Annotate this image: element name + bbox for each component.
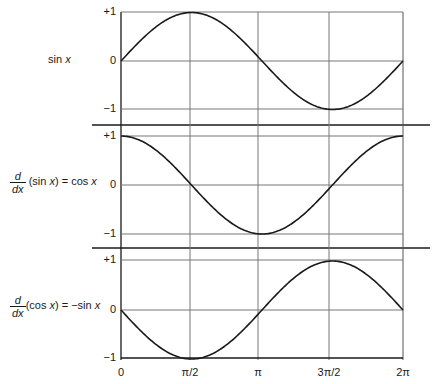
ytick-panel3-plus1: +1 xyxy=(96,253,116,265)
xtick-0: 0 xyxy=(101,366,141,378)
ytick-panel2-zero: 0 xyxy=(96,178,116,190)
panel-1-label: sin x xyxy=(48,53,71,65)
xtick-2pi: 2π xyxy=(383,366,423,378)
ytick-panel2-plus1: +1 xyxy=(96,129,116,141)
ytick-panel1-plus1: +1 xyxy=(96,5,116,17)
xtick-pi-half: π/2 xyxy=(170,366,210,378)
derivative-fraction: d dx xyxy=(10,170,26,195)
ytick-panel1-minus1: −1 xyxy=(96,102,116,114)
panel-3-label: d dx (cos x) = −sin x xyxy=(10,294,100,319)
derivative-fraction: d dx xyxy=(10,294,26,319)
ytick-panel3-zero: 0 xyxy=(96,303,116,315)
ytick-panel2-minus1: −1 xyxy=(96,227,116,239)
xtick-pi: π xyxy=(238,366,278,378)
ytick-panel3-minus1: −1 xyxy=(96,351,116,363)
panel-2-label: d dx (sin x) = cos x xyxy=(10,170,97,195)
xtick-3pi-half: 3π/2 xyxy=(309,366,349,378)
ytick-panel1-zero: 0 xyxy=(96,54,116,66)
